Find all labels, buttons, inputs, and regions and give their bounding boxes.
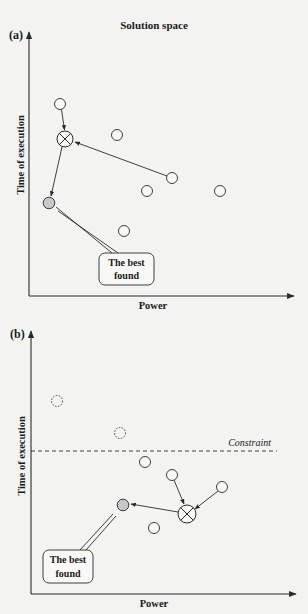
move-arrow [62, 110, 65, 131]
callout-pointer [56, 207, 118, 253]
best-solution-point [117, 499, 129, 511]
panel-a: Solution space (a) Time of execution Pow… [9, 19, 294, 311]
y-axis-label-a: Time of execution [15, 115, 26, 195]
callout-best-found-a: The best found [99, 253, 154, 285]
solution-point [142, 186, 153, 197]
x-axis-label-a: Power [139, 300, 168, 311]
solution-point [215, 186, 226, 197]
svg-text:The best: The best [50, 554, 87, 565]
move-arrow [131, 504, 178, 512]
solution-point [149, 523, 160, 534]
panel-b: (b) Time of execution Power Constraint T… [10, 327, 296, 609]
x-axis-label-b: Power [140, 598, 169, 609]
move-arrow [51, 147, 62, 196]
panel-label-b: (b) [10, 327, 25, 341]
callout-best-found-b: The best found [43, 550, 93, 583]
solution-point [140, 457, 151, 468]
move-arrow [75, 142, 167, 176]
move-arrow [195, 491, 218, 509]
svg-text:found: found [55, 568, 80, 579]
callout-pointer [80, 514, 116, 550]
figure-title: Solution space [120, 19, 188, 31]
solution-point [112, 130, 123, 141]
infeasible-point [115, 428, 126, 439]
svg-text:found: found [114, 270, 139, 281]
solution-point [55, 99, 66, 110]
solution-point [167, 173, 178, 184]
solution-space-figure: Solution space (a) Time of execution Pow… [0, 0, 308, 614]
crossed-circle-icon [57, 131, 73, 147]
solution-point [217, 482, 228, 493]
crossed-circle-icon [178, 505, 196, 523]
panel-label-a: (a) [9, 28, 23, 42]
solution-point [119, 226, 130, 237]
move-arrow [174, 480, 184, 504]
best-solution-point [43, 197, 55, 209]
infeasible-point [52, 396, 63, 407]
y-axis-label-b: Time of execution [16, 416, 27, 496]
svg-text:The best: The best [108, 257, 145, 268]
solution-point [167, 470, 178, 481]
constraint-label: Constraint [228, 437, 271, 448]
